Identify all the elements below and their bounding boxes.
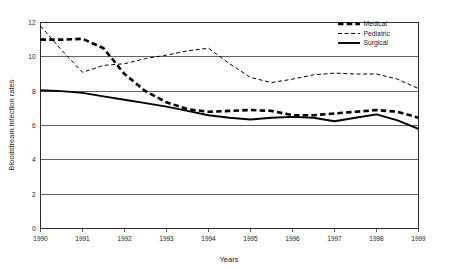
- gridlines: [41, 23, 419, 229]
- legend: MedicalPediatricSurgical: [338, 20, 391, 47]
- x-tick-label: 1995: [243, 235, 258, 242]
- data-series-group: [41, 26, 419, 129]
- x-axis-tick-labels: 1990199119921993199419951996199719981999: [33, 235, 426, 242]
- line-chart: 024681012 199019911992199319941995199619…: [0, 0, 449, 269]
- x-tick-label: 1991: [75, 235, 90, 242]
- x-tick-label: 1999: [411, 235, 426, 242]
- x-tick-label: 1990: [33, 235, 48, 242]
- series-line-pediatric: [41, 26, 419, 89]
- series-line-medical: [41, 39, 419, 118]
- x-tick-label: 1994: [201, 235, 216, 242]
- x-tick-label: 1998: [369, 235, 384, 242]
- y-axis-title: Bloodstream infection rates: [7, 79, 16, 170]
- legend-label-surgical: Surgical: [364, 39, 389, 47]
- y-tick-label: 6: [32, 122, 36, 129]
- chart-container: 024681012 199019911992199319941995199619…: [0, 0, 449, 269]
- x-axis-title: Years: [220, 255, 239, 264]
- legend-label-pediatric: Pediatric: [364, 30, 391, 37]
- x-axis-tickmarks: [41, 229, 419, 233]
- legend-label-medical: Medical: [364, 20, 388, 27]
- x-tick-label: 1996: [285, 235, 300, 242]
- y-tick-label: 0: [32, 225, 36, 232]
- y-tick-label: 10: [28, 53, 36, 60]
- y-tick-label: 4: [32, 156, 36, 163]
- y-tick-label: 2: [32, 191, 36, 198]
- x-tick-label: 1997: [327, 235, 342, 242]
- x-tick-label: 1992: [117, 235, 132, 242]
- y-tick-label: 8: [32, 88, 36, 95]
- y-axis-tick-labels: 024681012: [28, 19, 36, 232]
- y-tick-label: 12: [28, 19, 36, 26]
- x-tick-label: 1993: [159, 235, 174, 242]
